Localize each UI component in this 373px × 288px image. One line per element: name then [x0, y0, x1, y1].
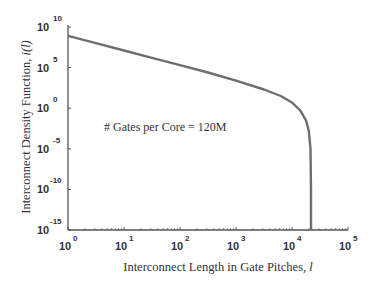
y-tick-label: 10-5	[37, 136, 61, 155]
interconnect-density-chart: 100101102103104105 101010510010-510-1010…	[0, 0, 373, 288]
x-tick-label: 101	[115, 234, 134, 252]
x-tick-label: 103	[227, 234, 246, 252]
x-tick-label: 100	[59, 234, 78, 252]
y-axis-ticks: 101010510010-510-1010-15	[37, 14, 71, 236]
y-tick-label: 10-10	[37, 176, 62, 195]
y-tick-label: 105	[37, 55, 58, 74]
x-axis-ticks: 100101102103104105	[59, 227, 358, 252]
y-axis-label: Interconnect Density Function, i(l)	[19, 40, 33, 214]
gates-per-core-annotation: # Gates per Core = 120M	[104, 120, 227, 134]
x-tick-label: 102	[171, 234, 190, 252]
y-tick-label: 100	[37, 95, 58, 114]
y-tick-label: 10-15	[37, 217, 62, 236]
x-tick-label: 105	[339, 234, 358, 252]
y-tick-label: 1010	[37, 14, 62, 33]
x-tick-label: 104	[283, 234, 302, 252]
x-axis-label: Interconnect Length in Gate Pitches, l	[123, 260, 313, 274]
